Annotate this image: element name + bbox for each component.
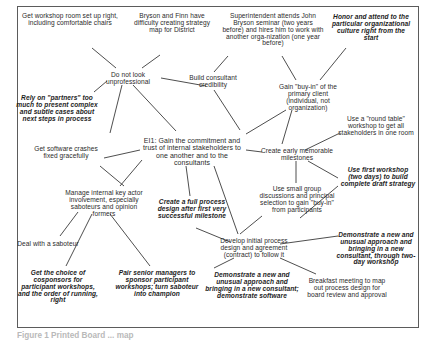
node-demonstrate-software[interactable]: Demonstrate a new and unusual approach a… xyxy=(205,272,299,299)
edge-el1-center-to-software-crashes xyxy=(104,150,140,158)
node-full-process[interactable]: Create a full process design after first… xyxy=(150,199,234,220)
edge-bryson-finn-to-do-not-look xyxy=(142,55,160,68)
node-build-credibility[interactable]: Build consultant credibility xyxy=(183,75,243,89)
node-manage-internal[interactable]: Manage internal key actor involvement, e… xyxy=(62,190,146,217)
node-create-milestones[interactable]: Create early memorable milestones xyxy=(259,148,335,162)
node-breakfast-meeting[interactable]: Breakfast meeting to map out process des… xyxy=(306,278,388,299)
edge-gain-buyin-client-to-el1-center xyxy=(246,110,286,134)
edge-software-crashes-to-manage-internal xyxy=(100,166,124,186)
node-round-table[interactable]: Use a "round table" workshop to get all … xyxy=(338,116,414,137)
node-use-first-workshop[interactable]: Use first workshop (two days) to build c… xyxy=(340,167,416,188)
edge-workshop-room-to-do-not-look xyxy=(92,48,116,68)
node-software-crashes[interactable]: Get software crashes fixed gracefully xyxy=(28,146,104,160)
edge-superintendent-to-build-credibility xyxy=(214,56,228,72)
node-cosponsors[interactable]: Get the choice of cosponsors for partici… xyxy=(16,270,100,304)
figure-caption: Figure 1 Printed Board ... map xyxy=(17,331,419,340)
edge-create-milestones-to-use-first-workshop xyxy=(308,161,338,178)
node-demonstrate-two-day[interactable]: Demonstrate a new and unusual approach a… xyxy=(336,232,416,266)
node-workshop-room[interactable]: Get workshop room set up right, includin… xyxy=(22,13,118,27)
node-pair-senior[interactable]: Pair senior managers to sponsor particip… xyxy=(113,270,201,297)
node-rely-partners[interactable]: Rely on "partners" too much to present c… xyxy=(12,95,102,122)
figure-page: Get workshop room set up right, includin… xyxy=(0,0,435,344)
node-develop-initial[interactable]: Develop initial process design and agree… xyxy=(213,238,295,259)
edge-build-credibility-to-el1-center xyxy=(214,90,240,130)
edge-el1-center-to-manage-internal xyxy=(120,160,142,186)
edge-gain-buyin-client-to-create-milestones xyxy=(282,110,292,144)
node-deal-saboteur[interactable]: Deal with a saboteur xyxy=(10,241,86,248)
node-el1-center[interactable]: EI1: Gain the commitment and trust of in… xyxy=(140,137,244,166)
node-bryson-finn[interactable]: Bryson and Finn have difficulty creating… xyxy=(128,13,216,34)
edge-manage-internal-to-pair-senior xyxy=(110,214,150,266)
edge-do-not-look-to-el1-center xyxy=(133,85,176,131)
edge-superintendent-to-gain-buyin-client xyxy=(282,56,296,80)
node-small-group[interactable]: Use small group discussions and principa… xyxy=(258,186,336,213)
node-honor-culture[interactable]: Honor and attend to the particular organ… xyxy=(330,14,412,41)
edge-small-group-to-develop-initial xyxy=(240,216,262,234)
edge-honor-culture-to-gain-buyin-client xyxy=(320,48,346,80)
node-gain-buyin-client[interactable]: Gain "buy-in" of the primary client (ind… xyxy=(272,84,344,111)
edge-el1-center-to-full-process xyxy=(186,166,190,196)
edge-do-not-look-to-el1-center xyxy=(110,85,122,133)
node-do-not-look[interactable]: Do not look unprofessional xyxy=(96,72,160,86)
node-superintendent[interactable]: Superintendent attends John Bryson semin… xyxy=(222,13,324,47)
edge-develop-initial-to-demonstrate-software xyxy=(214,258,234,268)
